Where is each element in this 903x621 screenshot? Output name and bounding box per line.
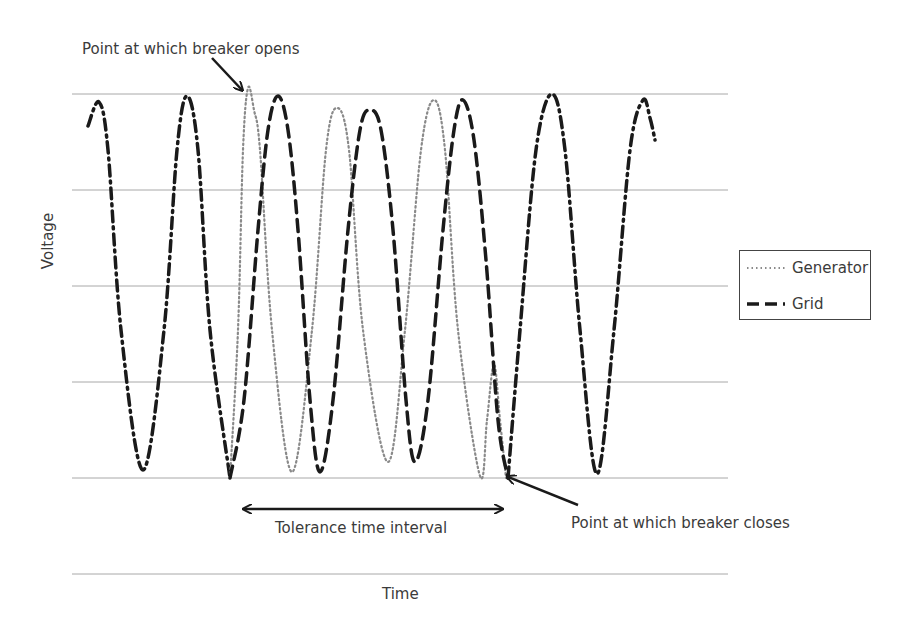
- y-axis-label: Voltage: [39, 211, 57, 271]
- dotted-line-icon: [746, 265, 786, 271]
- curves: [88, 87, 655, 479]
- series-dashed-line: [230, 96, 508, 478]
- x-axis-label: Time: [382, 585, 419, 603]
- series-dashdot-line: [88, 96, 230, 478]
- breaker-opens-label: Point at which breaker opens: [82, 40, 300, 58]
- series-dotted-line: [230, 87, 506, 479]
- breaker-closes-arrow: [508, 477, 578, 505]
- dashed-line-icon: [746, 301, 786, 307]
- legend-label-grid: Grid: [792, 295, 823, 313]
- legend-label-generator: Generator: [792, 259, 868, 277]
- tolerance-interval-label: Tolerance time interval: [275, 519, 447, 537]
- breaker-closes-label: Point at which breaker closes: [571, 514, 790, 532]
- legend-item-grid: Grid: [746, 294, 823, 314]
- legend-item-generator: Generator: [746, 258, 868, 278]
- legend: Generator Grid: [739, 250, 871, 320]
- breaker-opens-arrow: [212, 58, 242, 90]
